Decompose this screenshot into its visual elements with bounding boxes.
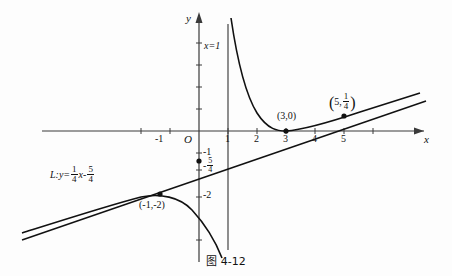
y-tick-neg2: -2 — [203, 189, 211, 200]
intercept-numerator: 5 — [87, 165, 94, 174]
asymptote-label: x=1 — [204, 40, 220, 51]
intersection-y-denominator: 4 — [343, 101, 350, 111]
point-local-max — [157, 191, 162, 196]
slope-denominator: 4 — [71, 174, 78, 184]
origin-label: O — [184, 133, 192, 145]
x-tick-5: 5 — [341, 133, 346, 144]
label-point-intersection: (5,14) — [329, 93, 356, 112]
intersection-comma: , — [339, 96, 342, 107]
x-tick-neg1: -1 — [155, 133, 163, 144]
y-axis-label: y — [186, 12, 191, 24]
point-y-intercept — [196, 158, 201, 163]
x-axis — [42, 128, 424, 135]
figure-caption: 图 4-12 — [0, 252, 452, 268]
curve-right-branch — [231, 18, 420, 131]
label-point-local-max: (-1,-2) — [139, 199, 165, 210]
line-equation-prefix: L:y= — [50, 169, 70, 180]
x-axis-label: x — [424, 133, 429, 145]
x-tick-4: 4 — [312, 133, 317, 144]
intersection-y-numerator: 1 — [343, 92, 350, 101]
line-equation-label: L:y=14x-54 — [50, 166, 95, 185]
y-tick-neg-five-fourths: -54 — [203, 158, 214, 175]
line-equation-minus: - — [83, 169, 86, 180]
y-tick-frac-numerator: 5 — [207, 157, 213, 165]
x-tick-1: 1 — [225, 133, 230, 144]
y-tick-frac-denominator: 4 — [207, 165, 213, 174]
point-intersection — [341, 113, 346, 118]
y-axis — [196, 12, 203, 262]
right-paren: ) — [350, 94, 355, 111]
label-point-tangency: (3,0) — [277, 110, 296, 121]
x-tick-2: 2 — [254, 133, 259, 144]
x-tick-3: 3 — [283, 133, 288, 144]
intercept-denominator: 4 — [87, 174, 94, 184]
slope-numerator: 1 — [71, 165, 78, 174]
